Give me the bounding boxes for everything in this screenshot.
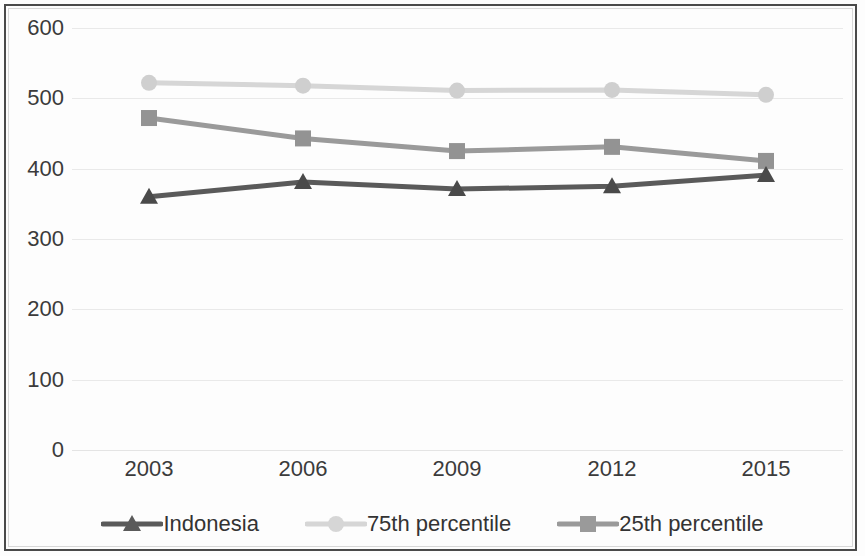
y-tick-label: 300 — [6, 228, 64, 250]
y-tick-label: 0 — [6, 439, 64, 461]
legend-label: 25th percentile — [619, 513, 763, 535]
legend-item-indonesia[interactable]: Indonesia — [101, 513, 258, 535]
chart-figure: 600 500 400 300 200 100 0 2003 2006 2009… — [0, 0, 865, 556]
data-point-circle — [328, 516, 344, 532]
data-point-square — [295, 130, 311, 146]
legend-label: Indonesia — [163, 513, 258, 535]
chart-legend: Indonesia 75th percentile 25th percentil… — [0, 505, 865, 543]
y-axis: 600 500 400 300 200 100 0 — [0, 28, 64, 450]
legend-marker-square-icon — [557, 514, 619, 534]
data-point-circle — [758, 87, 774, 103]
x-tick-label: 2012 — [588, 458, 637, 480]
x-tick-label: 2003 — [125, 458, 174, 480]
y-tick-label: 100 — [6, 369, 64, 391]
gridline-0 — [72, 450, 843, 451]
x-tick-label: 2006 — [279, 458, 328, 480]
series-layer — [72, 28, 843, 450]
data-point-circle — [141, 75, 157, 91]
data-point-square — [604, 139, 620, 155]
series-75th-percentile — [141, 75, 774, 103]
data-point-circle — [604, 82, 620, 98]
data-point-square — [141, 110, 157, 126]
legend-item-75th-percentile[interactable]: 75th percentile — [305, 513, 511, 535]
data-point-square — [580, 516, 596, 532]
legend-label: 75th percentile — [367, 513, 511, 535]
series-25th-percentile — [141, 110, 774, 169]
legend-marker-circle-icon — [305, 514, 367, 534]
y-tick-label: 600 — [6, 17, 64, 39]
legend-marker-triangle-icon — [101, 514, 163, 534]
y-tick-label: 200 — [6, 298, 64, 320]
y-tick-label: 400 — [6, 158, 64, 180]
x-tick-label: 2015 — [742, 458, 791, 480]
data-point-circle — [449, 83, 465, 99]
plot-area — [72, 28, 843, 450]
data-point-square — [449, 143, 465, 159]
series-indonesia — [140, 166, 775, 204]
y-tick-label: 500 — [6, 87, 64, 109]
data-point-circle — [295, 78, 311, 94]
x-tick-label: 2009 — [433, 458, 482, 480]
x-axis: 2003 2006 2009 2012 2015 — [72, 458, 843, 488]
legend-item-25th-percentile[interactable]: 25th percentile — [557, 513, 763, 535]
